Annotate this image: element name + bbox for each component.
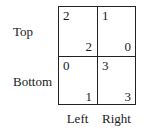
col-player-payoff: 2	[86, 40, 93, 53]
col-player-payoff: 3	[125, 90, 132, 103]
row-player-payoff: 2	[63, 9, 70, 22]
col-player-payoff: 1	[86, 90, 93, 103]
payoff-matrix: 2 2 1 0 0 1 3 3	[58, 6, 136, 105]
col-label-left: Left	[58, 112, 97, 125]
cell-bottom-right: 3 3	[98, 57, 136, 106]
row-label-bottom: Bottom	[13, 75, 52, 88]
row-player-payoff: 0	[63, 59, 70, 72]
cell-bottom-left: 0 1	[59, 57, 97, 106]
cell-top-right: 1 0	[98, 7, 136, 56]
row-label-top: Top	[13, 25, 33, 38]
row-player-payoff: 1	[102, 9, 109, 22]
row-player-payoff: 3	[102, 59, 109, 72]
col-player-payoff: 0	[125, 40, 132, 53]
col-label-right: Right	[97, 112, 136, 125]
cell-top-left: 2 2	[59, 7, 97, 56]
